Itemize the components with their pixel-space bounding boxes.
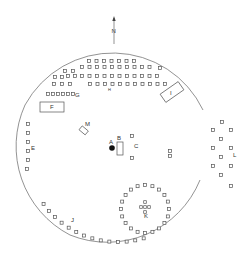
post-hole-l [230,185,233,188]
post-hole-ring [151,230,154,233]
post-hole-g [67,93,70,96]
post-hole-row2 [118,66,121,69]
post-hole-ring [168,208,171,211]
post-hole-j [134,239,137,242]
post-hole-k [144,206,147,209]
post-hole-row4 [134,83,137,86]
post-hole-j [60,221,63,224]
post-hole-row3 [133,75,136,78]
post-hole-e [26,168,29,171]
post-hole-ring [144,232,147,235]
post-hole-g [57,93,60,96]
post-hole-l [212,129,215,132]
post-hole-ring [129,188,132,191]
post-hole-ring [129,227,132,230]
post-hole-row3 [103,75,106,78]
post-hole-row4 [126,83,129,86]
post-hole-ring [144,184,147,187]
post-hole-row2 [81,66,84,69]
post-hole-row4 [141,83,144,86]
post-hole-row2 [96,66,99,69]
label-m: M [85,121,90,127]
post-hole-row2 [88,66,91,69]
post-hole [64,70,67,73]
post-hole [169,150,172,153]
post-hole-l [230,147,233,150]
label-k: K [144,213,148,219]
site-plan: N F I M A B C E G H J K L [0,0,252,260]
post-hole-l [230,129,233,132]
post-hole-ring [120,208,123,211]
post-hole-row2 [148,66,151,69]
post-hole-l [221,121,224,124]
post-hole-e [27,141,30,144]
post-hole-j [83,234,86,237]
post-hole [61,76,64,79]
post-hole-row3 [148,75,151,78]
post-hole-j [42,203,45,206]
post-hole-row4 [111,83,114,86]
label-g: G [75,92,80,98]
post-hole-row4 [164,83,167,86]
north-label: N [112,28,116,34]
label-c: C [134,143,139,149]
post-hole-g [52,93,55,96]
post-hole-row3 [156,75,159,78]
post-hole-g [47,93,50,96]
post-hole-row3 [141,75,144,78]
label-b: B [117,135,121,141]
post-hole-k [144,201,147,204]
post-hole-e [27,150,30,153]
post-hole-row1 [95,60,98,63]
label-f: F [50,104,54,110]
post-hole-row3 [118,75,121,78]
post-hole-l [212,165,215,168]
post-hole-ring [163,222,166,225]
post-hole-row2 [111,66,114,69]
post-hole-ring [158,227,161,230]
post-hole-row4 [119,83,122,86]
label-h: H [108,87,111,92]
post-hole-row2 [141,66,144,69]
post-hole-ring [121,200,124,203]
post-hole-j [142,237,145,240]
post-hole [69,83,72,86]
post-hole-l [212,147,215,150]
post-hole-ring [124,193,127,196]
post-hole-row3 [111,75,114,78]
post-hole-ring [166,200,169,203]
post-hole-row4 [149,83,152,86]
post-hole-row4 [156,83,159,86]
post-hole-l [220,156,223,159]
post-hole [169,155,172,158]
post-hole [67,75,70,78]
post-hole-g [62,93,65,96]
label-j: J [71,217,74,223]
post-hole-ring [136,185,139,188]
post-hole [131,135,134,138]
label-a: A [109,139,113,145]
post-hole-row4 [104,83,107,86]
post-hole-ring [121,215,124,218]
post-hole-ring [136,230,139,233]
post-hole-ring [163,193,166,196]
post-hole-l [220,174,223,177]
feature-a [109,145,115,151]
post-hole-row3 [81,75,84,78]
post-hole [159,67,162,70]
post-hole-k [140,206,143,209]
label-e: E [31,145,35,151]
post-hole-j [75,230,78,233]
post-hole-j [54,216,57,219]
post-hole [54,76,57,79]
post-hole-row2 [103,66,106,69]
post-hole-row2 [133,66,136,69]
post-hole [53,83,56,86]
post-holes [26,60,233,244]
post-hole-row1 [118,60,121,63]
post-hole-ring [158,188,161,191]
post-hole-j [117,241,120,244]
post-hole-j [91,237,94,240]
post-hole-j [108,240,111,243]
post-hole-e [27,132,30,135]
